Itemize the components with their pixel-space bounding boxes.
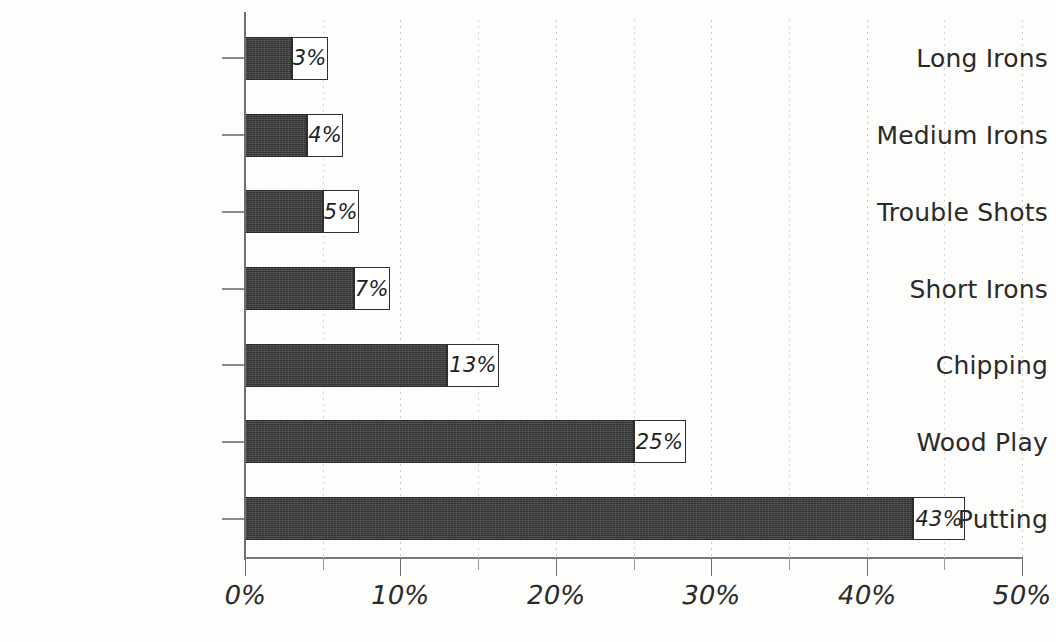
y-axis-tick [222, 57, 244, 59]
bar [245, 37, 292, 80]
y-axis-tick [222, 441, 244, 443]
y-axis-tick [222, 518, 244, 520]
category-label: Short Irons [834, 274, 1056, 303]
x-axis-tick-10 [400, 557, 401, 576]
x-axis-tick-15 [478, 557, 479, 570]
bar [245, 420, 634, 463]
x-tick-label: 30% [679, 580, 743, 610]
bar-chart: 3%4%5%7%13%25%43% Long IronsMedium Irons… [0, 0, 1056, 642]
x-axis-tick-0 [245, 557, 246, 576]
category-label: Putting [834, 504, 1056, 533]
x-axis-tick-40 [867, 557, 868, 576]
x-tick-label: 40% [835, 580, 899, 610]
x-axis-tick-25 [634, 557, 635, 570]
y-axis-tick [222, 134, 244, 136]
bar [245, 267, 354, 310]
x-tick-label: 10% [369, 580, 433, 610]
x-axis-tick-50 [1022, 557, 1023, 576]
category-label: Medium Irons [834, 121, 1056, 150]
category-label: Trouble Shots [834, 197, 1056, 226]
x-axis-tick-45 [944, 557, 945, 570]
category-label: Chipping [834, 351, 1056, 380]
bar-value-label: 7% [354, 267, 390, 310]
bar [245, 344, 447, 387]
x-tick-label: 50% [990, 580, 1054, 610]
x-axis-tick-30 [711, 557, 712, 576]
y-axis-tick [222, 211, 244, 213]
y-axis-tick [222, 364, 244, 366]
bar-value-label: 3% [292, 37, 328, 80]
bar [245, 114, 307, 157]
bar [245, 190, 323, 233]
bar-value-label: 4% [307, 114, 343, 157]
bar [245, 497, 913, 540]
category-label: Wood Play [834, 427, 1056, 456]
x-axis-tick-35 [789, 557, 790, 570]
bar-value-label: 5% [323, 190, 359, 233]
bar-value-label: 25% [634, 420, 686, 463]
x-tick-label: 20% [524, 580, 588, 610]
x-axis-tick-20 [556, 557, 557, 576]
y-axis-line [244, 12, 246, 560]
category-label: Long Irons [834, 44, 1056, 73]
y-axis-tick [222, 288, 244, 290]
x-tick-label: 0% [221, 580, 268, 610]
bar-value-label: 13% [447, 344, 499, 387]
x-axis-tick-5 [323, 557, 324, 570]
